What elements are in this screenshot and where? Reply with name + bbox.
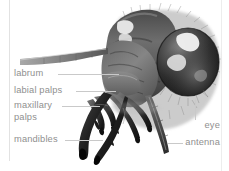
leader-labrum — [58, 74, 119, 75]
cast-shadow — [109, 102, 161, 114]
palp-tips — [99, 124, 152, 143]
right-margin-rule — [221, 0, 222, 171]
pronotum-shading — [112, 14, 160, 82]
compound-eye-sheen — [157, 28, 219, 96]
setae-top — [123, 3, 221, 120]
leader-eye — [195, 98, 196, 120]
mandible-teeth — [95, 120, 119, 146]
pronotum — [106, 10, 178, 100]
pronotum-macula-1 — [117, 20, 134, 34]
labrum-plate — [103, 72, 140, 96]
compound-eye — [157, 28, 219, 96]
eye-rim — [157, 28, 219, 96]
eye-highlight-minor — [194, 70, 207, 82]
leader-labial-palps — [76, 91, 116, 92]
antenna-lower-highlight — [149, 97, 166, 150]
mandible-right-tip — [94, 156, 101, 165]
anatomy-figure: labrum labial palps maxillary palps mand… — [0, 0, 229, 171]
maxillary-palp-2 — [87, 99, 105, 130]
label-labrum: labrum — [14, 68, 43, 79]
antenna-upper-highlight — [20, 49, 106, 60]
antenna-upper — [20, 48, 108, 65]
setae-halo — [107, 10, 219, 130]
left-margin-rule — [9, 0, 10, 161]
mandible-left-tip — [79, 149, 86, 160]
label-labial-palps: labial palps — [14, 85, 62, 96]
label-mandibles: mandibles — [14, 134, 58, 145]
maxillary-palp-1 — [94, 96, 116, 127]
labial-palp-1 — [117, 92, 152, 128]
antenna-lower-joints — [152, 106, 168, 137]
head-texture — [108, 52, 144, 94]
antenna-lower — [145, 95, 169, 154]
eye-highlight-main — [176, 33, 199, 52]
labial-palp-2 — [108, 94, 140, 139]
mandible-left — [79, 92, 112, 159]
label-maxillary-palps-second-line: palps — [14, 112, 37, 123]
pronotum-macula-2 — [119, 34, 132, 45]
antenna-segments — [44, 51, 92, 64]
mandible-right-highlight — [123, 108, 125, 124]
label-antenna: antenna — [173, 137, 220, 148]
eye-highlight-secondary — [167, 54, 186, 70]
labrum-highlight — [108, 76, 137, 80]
label-maxillary: maxillary — [14, 100, 52, 111]
leader-maxillary — [62, 106, 100, 107]
eye-fringe — [160, 88, 208, 106]
label-eye: eye — [186, 120, 220, 131]
leader-mandibles — [65, 140, 103, 141]
